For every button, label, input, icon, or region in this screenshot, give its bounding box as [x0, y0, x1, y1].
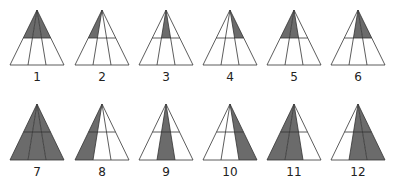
triangle-label: 9 — [146, 165, 186, 179]
triangle-label: 4 — [210, 70, 250, 84]
divider-line — [102, 10, 111, 65]
triangle-label: 11 — [274, 165, 314, 179]
triangle-outline — [75, 10, 129, 65]
triangle-outline — [203, 10, 257, 65]
divider-line — [221, 10, 230, 65]
triangle-label: 8 — [82, 165, 122, 179]
triangle-label: 7 — [17, 165, 57, 179]
triangle-label: 2 — [82, 70, 122, 84]
triangle-label: 1 — [17, 70, 57, 84]
triangle-label: 3 — [146, 70, 186, 84]
triangle-label: 12 — [338, 165, 378, 179]
triangle-label: 5 — [274, 70, 314, 84]
triangle-label: 6 — [338, 70, 378, 84]
triangle-figure — [0, 0, 397, 190]
triangle-label: 10 — [210, 165, 250, 179]
shaded-region — [161, 10, 170, 38]
